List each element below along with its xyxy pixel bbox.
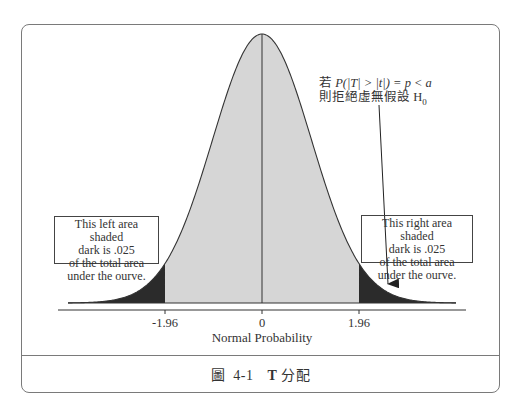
left-note-line: This left area shaded (58, 218, 155, 244)
left-note-line: under the ourve. (58, 270, 155, 283)
tick-label-0: 0 (259, 316, 265, 331)
x-axis-label: Normal Probability (212, 330, 313, 346)
hypothesis-annotation: 若 P(|T| > |t|) = p < a 則拒絕虛無假設 H0 (319, 76, 432, 109)
tick-label-1-96: 1.96 (348, 316, 370, 331)
annotation-line-2: 則拒絕虛無假設 H0 (319, 90, 432, 109)
left-area-note-box: This left area shaded dark is .025 of th… (54, 216, 159, 264)
normal-distribution-chart (0, 0, 524, 416)
right-note-line: under the ourve. (365, 269, 469, 282)
caption-number: 4-1 (233, 368, 253, 383)
tick-label-neg-1-96: -1.96 (152, 316, 178, 331)
figure-caption: 圖 4-1 T 分配 (21, 364, 500, 384)
annotation-line-1: 若 P(|T| > |t|) = p < a (319, 76, 432, 90)
caption-text: 分配 (281, 368, 310, 383)
right-note-line: This right area shaded (365, 217, 469, 243)
caption-bold: T (267, 368, 277, 383)
right-area-note-box: This right area shaded dark is .025 of t… (361, 215, 473, 263)
caption-prefix: 圖 (211, 368, 226, 383)
